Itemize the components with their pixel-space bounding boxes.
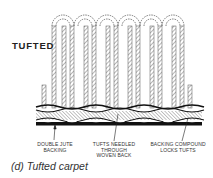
callout-backing-compound: BACKING COMPOUND LOCKS TUFTS xyxy=(148,142,208,153)
callout-tufts-needled: TUFTS NEEDLED THROUGH WOVEN BACK xyxy=(88,142,140,159)
tuft-strands xyxy=(42,26,192,108)
backing-layers xyxy=(36,105,204,126)
callout-line: BACKING xyxy=(30,148,80,154)
callout-line: LOCKS TUFTS xyxy=(148,148,208,154)
tufted-label: TUFTED xyxy=(12,40,54,51)
callout-line: WOVEN BACK xyxy=(88,153,140,159)
figure-caption: (d) Tufted carpet xyxy=(11,160,88,172)
callout-double-jute-backing: DOUBLE JUTE BACKING xyxy=(30,142,80,153)
pile-loops xyxy=(52,15,184,26)
